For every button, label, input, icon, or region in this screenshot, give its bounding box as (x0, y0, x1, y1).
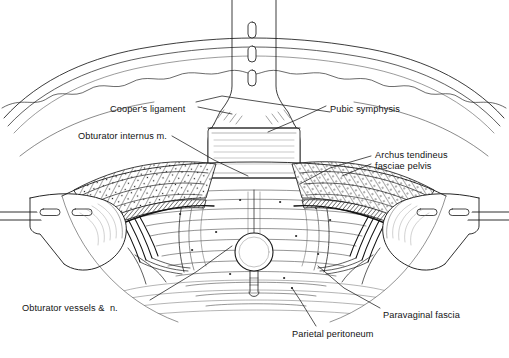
label-parietal-peritoneum: Parietal peritoneum (292, 329, 374, 340)
left-retractor-blade (0, 194, 126, 270)
label-coopers-ligament: Cooper's ligament (110, 104, 185, 115)
label-obturator-vessels-and-nerve: Obturator vessels & n. (22, 303, 118, 314)
urethral-catheter-ring (235, 233, 273, 297)
right-retractor-blade (383, 194, 509, 270)
label-obturator-internus-muscle: Obturator internus m. (78, 131, 167, 142)
surgical-anatomy-figure: Cooper's ligament Obturator internus m. … (0, 0, 509, 358)
label-paravaginal-fascia: Paravaginal fascia (383, 310, 460, 321)
label-archus-tendineus-fasciae-pelvis: Archus tendineus fasciae pelvis (375, 150, 448, 172)
label-pubic-symphysis: Pubic symphysis (330, 104, 400, 115)
